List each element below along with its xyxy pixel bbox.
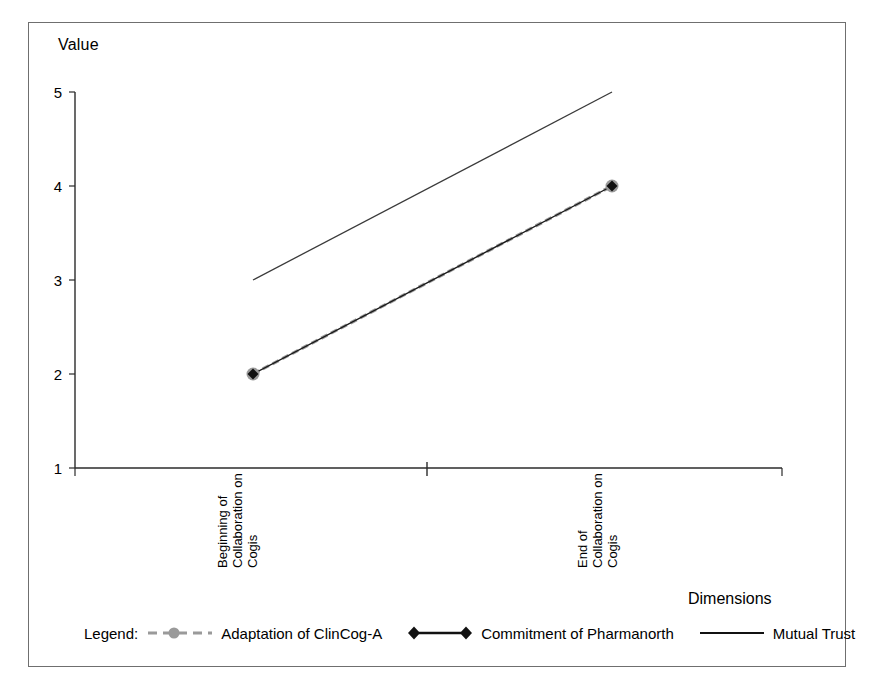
- legend-title: Legend:: [84, 625, 138, 642]
- chart-figure: Value Dimensions 5 4 3 2 1 Beginning of …: [0, 0, 875, 690]
- legend-swatch-mutual-trust-icon: [700, 626, 764, 640]
- series-line-mutual-trust: [253, 92, 612, 280]
- x-tick-label-end-line2: Collaboration on: [590, 473, 605, 568]
- legend-label-adaptation: Adaptation of ClinCog-A: [221, 625, 382, 642]
- legend-entry-adaptation: Adaptation of ClinCog-A: [148, 625, 382, 642]
- x-tick-label-end: End of Collaboration on Cogis: [575, 473, 620, 568]
- legend-swatch-adaptation-icon: [148, 626, 212, 640]
- y-tick-label-2: 2: [36, 366, 62, 383]
- y-tick-label-3: 3: [36, 272, 62, 289]
- legend-label-commitment: Commitment of Pharmanorth: [481, 625, 674, 642]
- x-tick-label-beginning: Beginning of Collaboration on Cogis: [215, 473, 260, 568]
- legend-swatch-commitment-icon: [408, 626, 472, 640]
- x-tick-label-beginning-line3: Cogis: [245, 535, 260, 568]
- x-tick-label-end-line1: End of: [575, 530, 590, 568]
- y-tick-label-1: 1: [36, 460, 62, 477]
- x-axis-title: Dimensions: [688, 590, 772, 608]
- legend-label-mutual-trust: Mutual Trust: [773, 625, 856, 642]
- x-tick-label-beginning-line2: Collaboration on: [230, 473, 245, 568]
- x-tick-label-beginning-line1: Beginning of: [215, 496, 230, 568]
- legend-entry-commitment: Commitment of Pharmanorth: [408, 625, 674, 642]
- series-line-commitment: [253, 186, 612, 374]
- chart-plot: [0, 0, 875, 690]
- y-tick-label-4: 4: [36, 178, 62, 195]
- y-axis-title: Value: [58, 36, 99, 54]
- chart-legend: Legend: Adaptation of ClinCog-A Commitme…: [84, 622, 784, 644]
- legend-entry-mutual-trust: Mutual Trust: [700, 625, 856, 642]
- x-tick-label-end-line3: Cogis: [605, 535, 620, 568]
- y-tick-label-5: 5: [36, 84, 62, 101]
